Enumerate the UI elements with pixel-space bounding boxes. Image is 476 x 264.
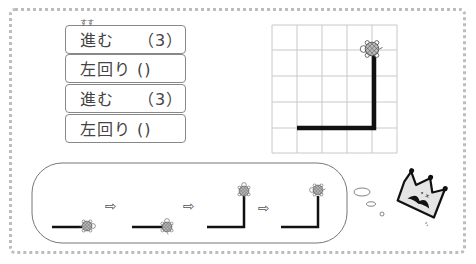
arrow-1: ⇨ [105,198,117,214]
svg-text:›,: ›, [424,219,431,227]
illustration: • × ›, [0,0,476,264]
arrow-3: ⇨ [258,200,270,216]
turtle-icon [360,41,382,58]
turtle-path [297,52,374,128]
arrow-2: ⇨ [183,198,195,214]
crown-character-icon: • × ›, [391,166,450,228]
